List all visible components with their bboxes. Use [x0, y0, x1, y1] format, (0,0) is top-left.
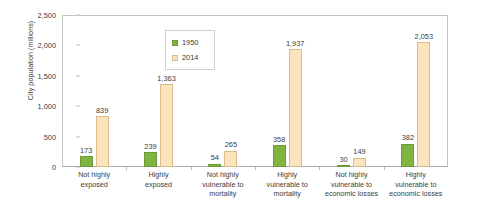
- bar-value-label: 1,363: [157, 74, 176, 83]
- bar-chart: City population (millions) 05001,0001,50…: [0, 0, 486, 217]
- x-axis-category-label-line: Highly: [377, 170, 455, 180]
- bar-value-label: 239: [144, 142, 156, 151]
- bar-2014-5: [417, 42, 430, 167]
- bar-value-label: 1,937: [286, 39, 305, 48]
- y-axis-tick-label: 2,000: [18, 41, 56, 50]
- x-axis-category-label-line: economic losses: [377, 189, 455, 199]
- chart-legend: 1950 2014: [165, 30, 215, 70]
- legend-swatch-2014-icon: [172, 55, 178, 61]
- bar-value-label: 54: [211, 153, 219, 162]
- legend-label-1950: 1950: [182, 38, 198, 47]
- bar-value-label: 265: [225, 140, 237, 149]
- bar-2014-3: [289, 49, 302, 167]
- bar-1950-3: [273, 145, 286, 167]
- bars-layer: 1738392391,363542653581,937301493822,053: [62, 15, 448, 167]
- bar-1950-0: [80, 156, 93, 167]
- y-axis-tick-label: 1,000: [18, 102, 56, 111]
- legend-entry-1950: 1950: [172, 38, 198, 47]
- bar-2014-2: [224, 151, 237, 167]
- legend-label-2014: 2014: [182, 53, 198, 62]
- x-axis-category-label: Highlyvulnerable toeconomic losses: [377, 170, 455, 199]
- bar-value-label: 30: [339, 155, 347, 164]
- bar-1950-2: [208, 164, 221, 167]
- bar-value-label: 149: [353, 147, 365, 156]
- y-axis-tick-label: 0: [18, 163, 56, 172]
- bar-value-label: 2,053: [415, 32, 434, 41]
- bar-1950-5: [401, 144, 414, 167]
- legend-swatch-1950-icon: [172, 40, 178, 46]
- x-axis-category-label-line: vulnerable to: [377, 180, 455, 190]
- bar-value-label: 173: [80, 146, 92, 155]
- bar-2014-4: [353, 158, 366, 167]
- bar-value-label: 839: [96, 106, 108, 115]
- bar-2014-0: [96, 116, 109, 167]
- y-axis-tick-labels: 05001,0001,5002,0002,500: [18, 15, 56, 167]
- bar-2014-1: [160, 84, 173, 167]
- y-axis-tick-label: 500: [18, 132, 56, 141]
- x-axis-category-labels: Not highlyexposedHighlyexposedNot highly…: [62, 170, 448, 215]
- y-axis-tick-label: 2,500: [18, 11, 56, 20]
- bar-value-label: 358: [273, 135, 285, 144]
- legend-entry-2014: 2014: [172, 53, 198, 62]
- bar-1950-4: [337, 165, 350, 167]
- bar-1950-1: [144, 152, 157, 167]
- y-axis-tick-label: 1,500: [18, 71, 56, 80]
- bar-value-label: 382: [402, 133, 414, 142]
